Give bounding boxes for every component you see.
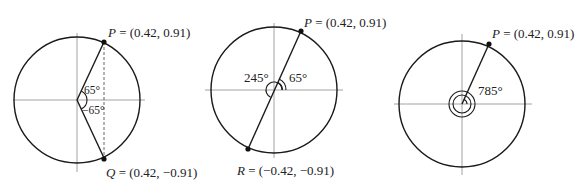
unit-circle-diagrams: 65° −65° P = (0.42, 0.91) Q = (0.42, −0.…: [0, 0, 580, 191]
label-R: R = (−0.42, −0.91): [236, 163, 334, 178]
figure-1-reflection: 65° −65° P = (0.42, 0.91) Q = (0.42, −0.…: [13, 25, 197, 180]
point-P: [486, 41, 491, 46]
angle-label-neg65: −65°: [82, 104, 105, 116]
point-P: [298, 28, 303, 33]
label-P: P = (0.42, 0.91): [303, 15, 386, 30]
label-P: P = (0.42, 0.91): [491, 26, 574, 41]
label-P: P = (0.42, 0.91): [107, 25, 190, 40]
figure-3-multiple-rotations: 785° P = (0.42, 0.91): [394, 26, 574, 175]
angle-label-65: 65°: [84, 84, 101, 96]
label-Q: Q = (0.42, −0.91): [106, 165, 197, 180]
figure-2-opposite: 65° 245° P = (0.42, 0.91) R = (−0.42, −0…: [205, 15, 386, 178]
point-R: [245, 146, 250, 151]
point-Q: [101, 156, 106, 161]
angle-label-245: 245°: [244, 70, 269, 85]
angle-label-785: 785°: [478, 83, 503, 98]
angle-label-65: 65°: [289, 70, 307, 85]
rotation-arc-inner: [464, 100, 467, 105]
point-P: [101, 39, 106, 44]
